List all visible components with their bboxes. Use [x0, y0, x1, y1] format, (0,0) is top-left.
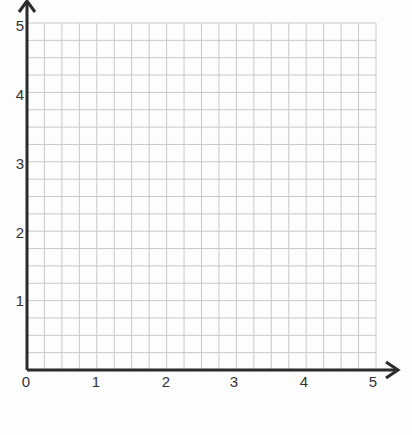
- x-tick-label: 1: [92, 373, 100, 390]
- y-tick-label: 3: [16, 155, 24, 172]
- x-tick-label: 5: [369, 373, 377, 390]
- x-tick-label: 2: [162, 373, 170, 390]
- coordinate-grid: 0 1 2 3 4 5 1 2 3 4 5: [0, 0, 412, 435]
- y-tick-label: 1: [16, 292, 24, 309]
- y-tick-label: 2: [16, 224, 24, 241]
- x-tick-label: 3: [230, 373, 238, 390]
- tick-labels: 0 1 2 3 4 5 1 2 3 4 5: [16, 17, 377, 390]
- grid-lines: [27, 23, 376, 370]
- x-tick-label: 4: [300, 373, 308, 390]
- x-tick-label: 0: [22, 373, 30, 390]
- y-tick-label: 5: [16, 17, 24, 34]
- y-tick-label: 4: [16, 86, 24, 103]
